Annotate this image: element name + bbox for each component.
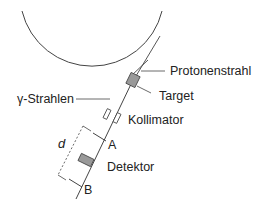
target-leader bbox=[137, 86, 151, 93]
beam-axis-line bbox=[76, 82, 132, 199]
distance-dim-bottom bbox=[58, 175, 66, 180]
label-point-b: B bbox=[84, 183, 92, 197]
proton-beam-line bbox=[136, 36, 160, 76]
gamma-detection-diagram: Protonenstrahl Target γ-Strahlen Kollima… bbox=[0, 0, 264, 210]
collimator-plate-right bbox=[113, 113, 121, 124]
tick-b bbox=[69, 179, 82, 187]
collimator-plate-left bbox=[103, 109, 111, 120]
label-distance-d: d bbox=[58, 136, 66, 151]
label-collimator: Kollimator bbox=[128, 113, 184, 127]
label-target: Target bbox=[159, 89, 194, 103]
label-proton-beam: Protonenstrahl bbox=[170, 64, 251, 78]
tick-a bbox=[93, 133, 106, 141]
detector-block bbox=[78, 153, 94, 166]
target-block bbox=[126, 72, 140, 87]
label-gamma-rays: γ-Strahlen bbox=[17, 92, 74, 106]
label-point-a: A bbox=[108, 138, 117, 152]
distance-dim-top bbox=[83, 126, 91, 131]
accelerator-ring-arc bbox=[22, 11, 162, 66]
label-detector: Detektor bbox=[107, 160, 154, 174]
